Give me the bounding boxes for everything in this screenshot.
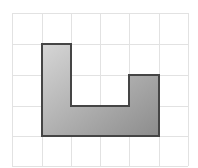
grid-diagram <box>0 0 198 168</box>
grid-lines <box>12 13 189 167</box>
